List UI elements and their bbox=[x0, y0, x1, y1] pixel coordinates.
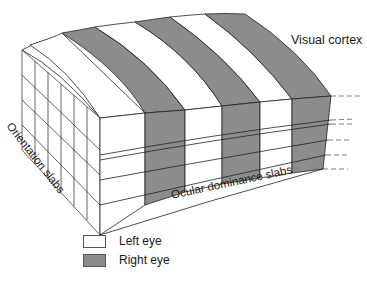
diagram-title: Visual cortex bbox=[291, 33, 362, 47]
legend-label: Right eye bbox=[119, 253, 170, 267]
legend-label: Left eye bbox=[119, 234, 162, 248]
legend-right-eye: Right eye bbox=[83, 253, 170, 267]
front-col-left-1 bbox=[100, 113, 145, 235]
right-eye-swatch bbox=[83, 254, 106, 267]
front-face bbox=[100, 96, 331, 235]
left-eye-swatch bbox=[83, 235, 106, 248]
legend-left-eye: Left eye bbox=[83, 234, 162, 248]
